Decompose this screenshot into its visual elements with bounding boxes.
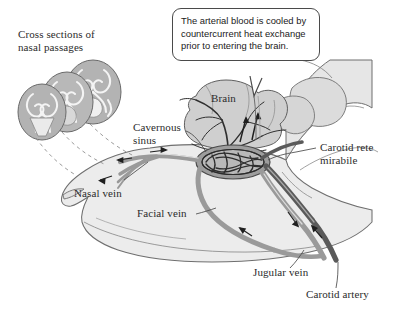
- figure-root: The arterial blood is cooled by counterc…: [0, 0, 393, 326]
- label-carotid-artery: Carotid artery: [306, 288, 369, 301]
- nasal-cross-sections: [18, 60, 121, 140]
- label-cross-sections: Cross sections of nasal passages: [18, 28, 95, 54]
- label-cavernous-sinus: Cavernous sinus: [133, 121, 181, 147]
- callout-text: The arterial blood is cooled by counterc…: [181, 15, 312, 53]
- carotid-rete-mirabile: [196, 145, 270, 179]
- callout-box: The arterial blood is cooled by counterc…: [172, 8, 320, 61]
- label-nasal-vein: Nasal vein: [74, 187, 122, 200]
- label-facial-vein: Facial vein: [137, 207, 187, 220]
- label-carotid-rete: Carotid rete mirabile: [320, 141, 373, 167]
- cross-section-1: [18, 84, 66, 140]
- label-jugular-vein: Jugular vein: [253, 266, 308, 279]
- label-brain: Brain: [211, 92, 236, 105]
